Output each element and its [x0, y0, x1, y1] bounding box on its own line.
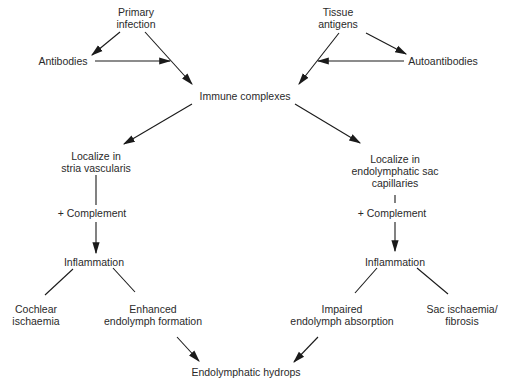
node-label: infection [116, 18, 155, 30]
edge-inflammation-to-sac-ischaemia [417, 268, 448, 294]
node-label: Cochlear [12, 303, 59, 315]
node-inflammation-left: Inflammation [64, 256, 124, 268]
node-immune-complexes: Immune complexes [199, 90, 290, 102]
node-label: fibrosis [426, 315, 497, 327]
edge-tissue-to-immune [299, 33, 339, 84]
edge-inflammation-to-enhanced [113, 268, 135, 292]
edge-tissue-to-autoantibodies [366, 33, 406, 54]
node-localize-stria-vascularis: Localize in stria vascularis [61, 150, 130, 174]
node-inflammation-right: Inflammation [365, 256, 425, 268]
node-label: Autoantibodies [408, 55, 477, 67]
edge-immune-to-sac [295, 104, 360, 143]
edge-primary-to-antibodies [92, 32, 120, 55]
node-label: Impaired [290, 303, 393, 315]
node-label: stria vascularis [61, 162, 130, 174]
node-label: Sac ischaemia/ [426, 303, 497, 315]
node-label: Immune complexes [199, 90, 290, 102]
node-label: Enhanced [104, 303, 202, 315]
node-endolymphatic-hydrops: Endolymphatic hydrops [191, 366, 300, 378]
node-localize-endolymphatic-sac: Localize in endolymphatic sac capillarie… [352, 153, 439, 189]
node-label: + Complement [58, 207, 127, 219]
node-enhanced-endolymph-formation: Enhanced endolymph formation [104, 303, 202, 327]
edge-inflammation-to-cochlear [45, 269, 73, 295]
edge-inflammation-to-impaired [355, 268, 377, 293]
node-label: + Complement [358, 207, 427, 219]
node-label: Inflammation [365, 256, 425, 268]
node-label: Localize in [61, 150, 130, 162]
node-label: Endolymphatic hydrops [191, 366, 300, 378]
edge-immune-to-stria [124, 104, 192, 144]
edge-impaired-to-hydrops [294, 337, 318, 362]
node-cochlear-ischaemia: Cochlear ischaemia [12, 303, 59, 327]
node-antibodies: Antibodies [38, 55, 87, 67]
node-label: capillaries [352, 177, 439, 189]
node-label: endolymph absorption [290, 315, 393, 327]
edge-enhanced-to-hydrops [177, 337, 199, 361]
node-sac-ischaemia-fibrosis: Sac ischaemia/ fibrosis [426, 303, 497, 327]
node-label: endolymph formation [104, 315, 202, 327]
node-label: Primary [116, 6, 155, 18]
node-impaired-endolymph-absorption: Impaired endolymph absorption [290, 303, 393, 327]
node-autoantibodies: Autoantibodies [408, 55, 477, 67]
node-label: antigens [318, 18, 358, 30]
node-complement-left: + Complement [58, 207, 127, 219]
node-label: ischaemia [12, 315, 59, 327]
node-primary-infection: Primary infection [116, 6, 155, 30]
node-label: Localize in [352, 153, 439, 165]
node-label: Inflammation [64, 256, 124, 268]
edge-primary-to-immune [145, 32, 192, 84]
node-complement-right: + Complement [358, 207, 427, 219]
node-label: Tissue [318, 6, 358, 18]
node-label: endolymphatic sac [352, 165, 439, 177]
flowchart: Primary infection Tissue antigens Antibo… [0, 0, 511, 390]
node-tissue-antigens: Tissue antigens [318, 6, 358, 30]
node-label: Antibodies [38, 55, 87, 67]
